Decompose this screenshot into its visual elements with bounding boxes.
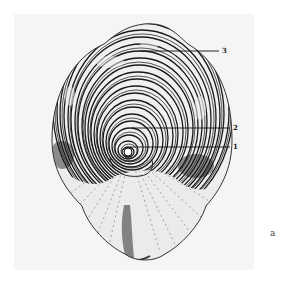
fish-scale-drawing: [0, 0, 288, 284]
figure-letter: a: [270, 229, 275, 238]
label-3: 3: [222, 47, 227, 54]
label-1: 1: [233, 143, 238, 150]
label-2: 2: [233, 124, 238, 131]
nucleus: [124, 148, 132, 156]
